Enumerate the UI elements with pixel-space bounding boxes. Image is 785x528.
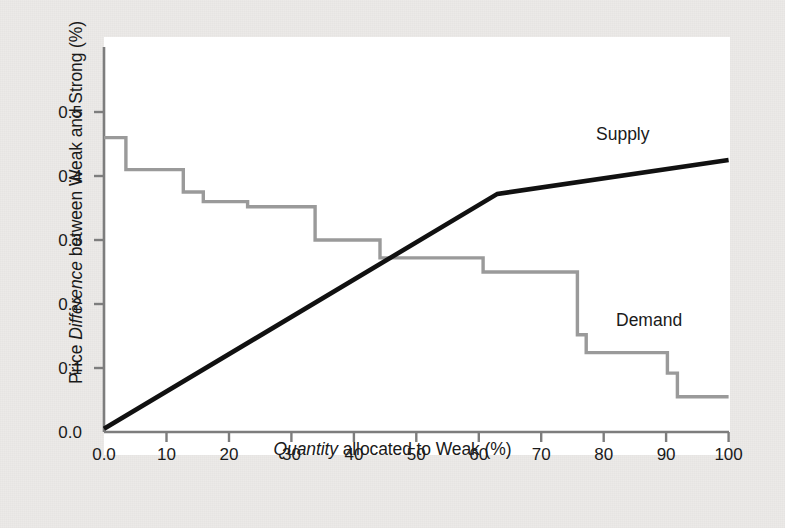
- supply-series-label: Supply: [596, 124, 650, 145]
- demand-series-label: Demand: [616, 310, 682, 331]
- chart-canvas: [26, 22, 759, 468]
- y-axis-title-emphasis: Difference: [66, 261, 86, 340]
- demand-curve: [104, 138, 729, 397]
- y-axis-title: Price Difference between Weak and Strong…: [66, 0, 87, 413]
- x-axis-title: Quantity allocated to Weak (%): [26, 439, 759, 460]
- supply-curve: [104, 160, 729, 429]
- chart-figure: 0.0 0.1 0.2 0.3 0.4 0.5 0.0 10 20 30 40 …: [26, 22, 759, 468]
- y-tick-marks: [94, 112, 104, 368]
- x-axis-title-suffix: allocated to Weak (%): [338, 439, 512, 459]
- x-axis-title-emphasis: Quantity: [274, 439, 338, 459]
- y-axis-title-prefix: Price: [66, 340, 86, 384]
- y-axis-title-suffix: between Weak and Strong (%): [66, 21, 86, 261]
